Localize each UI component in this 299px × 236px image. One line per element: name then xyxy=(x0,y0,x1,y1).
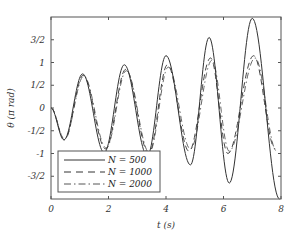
y-tick-label: -1 xyxy=(36,149,45,159)
legend: N = 500 N = 1000 N = 2000 xyxy=(58,151,160,192)
x-tick-label: 8 xyxy=(278,204,284,214)
y-tick-label: 1 xyxy=(39,58,45,68)
legend-label-n1000: N = 1000 xyxy=(107,167,152,177)
y-tick-label: 0 xyxy=(39,103,45,113)
x-tick-label: 2 xyxy=(105,204,112,214)
y-tick-label: -3/2 xyxy=(27,171,45,181)
line-chart: 02468 -3/2-1-1/201/213/2 t (s) θ (π rad)… xyxy=(0,0,299,236)
series-line-2000 xyxy=(51,58,277,153)
y-tick-label: 3/2 xyxy=(31,35,46,45)
x-tick-label: 6 xyxy=(221,204,227,214)
series-line-1000 xyxy=(51,56,275,154)
x-axis-label: t (s) xyxy=(157,220,176,230)
x-tick-label: 4 xyxy=(162,204,169,214)
y-tick-label: 1/2 xyxy=(31,80,46,90)
y-tick-label: -1/2 xyxy=(27,126,45,136)
legend-label-n500: N = 500 xyxy=(107,155,147,165)
legend-label-n2000: N = 2000 xyxy=(107,179,152,189)
y-axis-label: θ (π rad) xyxy=(6,88,16,128)
x-tick-label: 0 xyxy=(48,204,54,214)
